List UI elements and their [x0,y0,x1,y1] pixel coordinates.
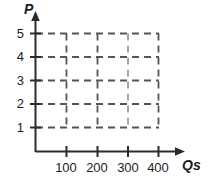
x-tick-label-100: 100 [50,161,82,174]
y-tick-label-4: 4 [8,50,24,63]
x-axis-arrowhead [175,147,185,156]
y-tick-label-5: 5 [8,27,24,40]
x-tick-label-300: 300 [112,161,144,174]
plot-area [0,0,208,184]
y-tick-label-2: 2 [8,97,24,110]
y-tick-label-1: 1 [8,121,24,134]
x-axis-title: Qs [182,158,201,172]
x-tick-label-200: 200 [81,161,113,174]
x-tick-label-400: 400 [142,161,174,174]
supply-graph-figure: P Qs 5 4 3 2 1 100 200 300 400 [0,0,208,184]
y-axis-title: P [24,2,33,16]
y-tick-label-3: 3 [8,74,24,87]
